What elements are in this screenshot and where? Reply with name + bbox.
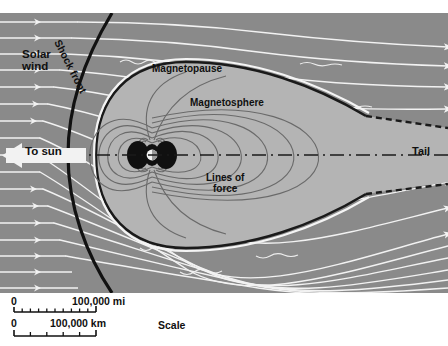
scale-miles-max-label: 100,000 mi [72,296,125,307]
scale-caption: Scale [158,320,185,331]
label-lines-of-force: Lines of force [206,173,244,194]
magnetosphere-diagram: Solar wind To sun Shock front Magnetopau… [0,0,448,346]
label-tail: Tail [412,146,430,158]
label-solar-wind: Solar wind [22,48,51,72]
scale-km-zero-label: 0 [11,318,17,329]
label-magnetosphere: Magnetosphere [190,98,264,109]
scale-miles-zero-label: 0 [11,296,17,307]
label-to-sun: To sun [25,145,62,157]
label-magnetopause: Magnetopause [152,64,222,75]
scale-km-max-label: 100,000 km [50,318,106,329]
